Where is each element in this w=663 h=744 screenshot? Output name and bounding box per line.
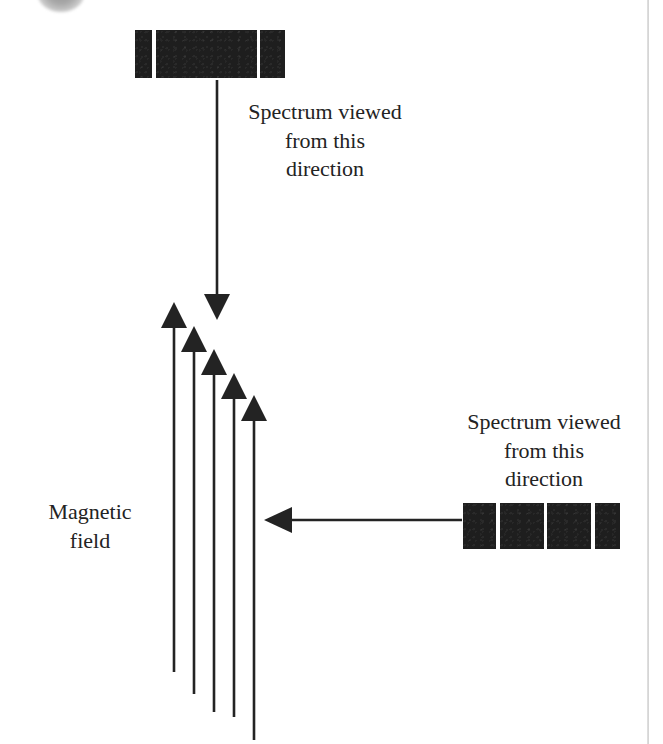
magnetic-field-arrow-3-head (201, 349, 227, 375)
magnetic-field-arrow-2-head (181, 326, 207, 352)
magnetic-field-arrow-5-head (241, 395, 267, 421)
spectrum-bar-top (135, 30, 285, 78)
spectral-line-segment (156, 30, 258, 78)
caption-spectrum-viewed-right: Spectrum viewed from this direction (438, 408, 650, 494)
page-edge-line (647, 0, 649, 744)
spectral-line-segment (500, 503, 544, 549)
spectral-line-segment (595, 503, 620, 549)
spectral-line-segment (260, 30, 285, 78)
spectral-line-segment (547, 503, 591, 549)
spectral-line-segment (463, 503, 496, 549)
spectrum-bar-right (463, 503, 620, 549)
spectral-line-segment (135, 30, 152, 78)
diagram-canvas: Spectrum viewed from this direction Magn… (0, 0, 663, 744)
label-magnetic-field: Magnetic field (14, 498, 166, 555)
magnetic-field-arrow-4-head (221, 373, 247, 399)
magnetic-field-arrows-group (161, 302, 267, 740)
caption-spectrum-viewed-top: Spectrum viewed from this direction (222, 98, 428, 184)
magnetic-field-arrow-1-head (161, 302, 187, 328)
viewing-direction-arrow-left-head (264, 507, 292, 533)
viewing-direction-arrow-down-head (204, 294, 230, 320)
scan-blob-icon (38, 0, 84, 12)
